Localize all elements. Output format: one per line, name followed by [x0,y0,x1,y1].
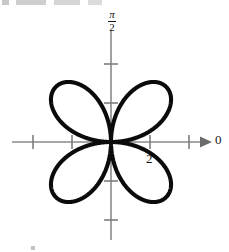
axis-tick-label-2: 2 [146,152,153,165]
fraction-numerator: π [108,9,116,20]
axis-label-pi-over-two: π 2 [102,9,122,33]
polar-plot-canvas [0,0,229,252]
axis-label-theta-zero: 0 [215,133,222,146]
scan-artifact-bottom [31,246,35,250]
axis-horizontal-arrowhead [200,137,212,148]
fraction-pi-over-two: π 2 [108,9,116,33]
fraction-denominator: 2 [108,22,116,33]
polar-rose-figure: π 2 0 2 [0,0,229,252]
